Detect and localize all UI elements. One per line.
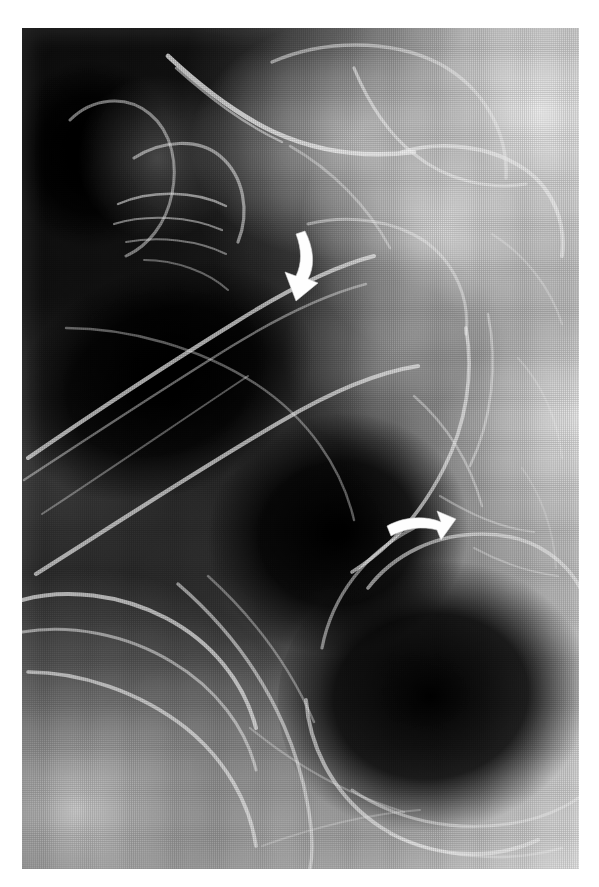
radiograph-plate (22, 28, 579, 869)
film-grain-texture (22, 28, 579, 869)
figure-caption (22, 872, 579, 884)
radiograph-figure (0, 0, 599, 887)
